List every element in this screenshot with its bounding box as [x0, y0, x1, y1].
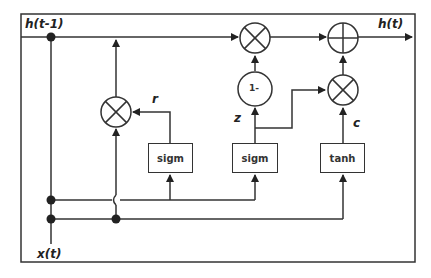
z-label: z: [234, 112, 241, 124]
gru-diagram: [0, 0, 431, 278]
junction-dot: [47, 33, 56, 42]
candidate-multiply-op: [328, 75, 358, 105]
x-in-label: x(t): [37, 248, 61, 260]
candidate-block: tanh: [320, 143, 365, 173]
one-minus-label: 1-: [249, 83, 259, 93]
frame: [21, 14, 415, 262]
junction-dot: [47, 215, 56, 224]
sum-op: [328, 23, 358, 53]
h-prev-label: h(t-1): [25, 18, 64, 30]
update-gate-block: sigm: [232, 143, 278, 173]
update-multiply-op: [240, 23, 270, 53]
reset-gate-block: sigm: [148, 143, 193, 173]
reset-multiply-op: [101, 97, 131, 127]
junction-dot: [47, 196, 56, 205]
c-label: c: [353, 117, 360, 129]
r-label: r: [152, 93, 158, 105]
junction-dot: [112, 215, 121, 224]
h-out-label: h(t): [378, 18, 403, 30]
